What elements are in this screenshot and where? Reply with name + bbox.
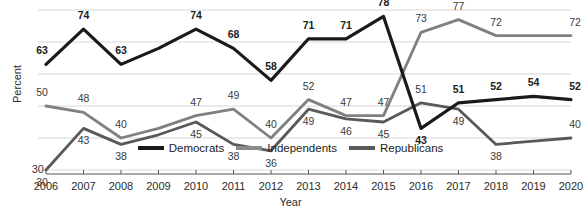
data-label: 40	[258, 118, 284, 130]
data-label: 73	[408, 12, 434, 24]
data-label: 52	[296, 80, 322, 92]
x-tick-label: 2013	[289, 180, 329, 192]
x-tick-label: 2014	[326, 180, 366, 192]
data-label: 49	[446, 115, 472, 127]
x-axis-title: Year	[0, 196, 581, 208]
data-label: 63	[29, 44, 55, 56]
legend-item-independents[interactable]: Independents	[236, 142, 337, 154]
data-label: 51	[446, 83, 472, 95]
data-label: 74	[71, 9, 97, 21]
data-label: 68	[221, 28, 247, 40]
legend-swatch-icon	[138, 146, 164, 150]
legend-swatch-icon	[349, 146, 375, 150]
x-tick-label: 2015	[364, 180, 404, 192]
data-label: 46	[333, 125, 359, 137]
legend-label: Republicans	[380, 142, 443, 154]
data-label: 72	[562, 16, 588, 28]
chart-legend: DemocratsIndependentsRepublicans	[0, 142, 581, 154]
legend-label: Independents	[267, 142, 337, 154]
data-label: 74	[183, 9, 209, 21]
data-label: 45	[371, 128, 397, 140]
data-label: 45	[183, 128, 209, 140]
x-tick-label: 2012	[251, 180, 291, 192]
data-label: 47	[371, 96, 397, 108]
x-tick-label: 2018	[476, 180, 516, 192]
data-label: 47	[333, 96, 359, 108]
data-label: 71	[296, 19, 322, 31]
x-tick-label: 2011	[214, 180, 254, 192]
data-label: 71	[333, 19, 359, 31]
data-label: 63	[108, 44, 134, 56]
data-label: 78	[371, 0, 397, 8]
data-label: 50	[29, 86, 55, 98]
data-label: 40	[108, 118, 134, 130]
x-tick-label: 2020	[551, 180, 588, 192]
x-tick-label: 2008	[101, 180, 141, 192]
data-label: 49	[221, 89, 247, 101]
data-label: 58	[258, 60, 284, 72]
x-tick-label: 2019	[514, 180, 554, 192]
x-tick-label: 2016	[401, 180, 441, 192]
data-label: 40	[562, 118, 588, 130]
data-label: 48	[71, 92, 97, 104]
y-tick-label: 30	[22, 163, 44, 175]
x-tick-label: 2010	[176, 180, 216, 192]
data-label: 77	[446, 0, 472, 12]
x-tick-label: 2009	[139, 180, 179, 192]
data-label: 30	[29, 176, 55, 188]
legend-label: Democrats	[169, 142, 225, 154]
x-tick-label: 2007	[64, 180, 104, 192]
data-label: 72	[483, 16, 509, 28]
legend-swatch-icon	[236, 146, 262, 150]
data-label: 51	[408, 83, 434, 95]
data-label: 49	[296, 115, 322, 127]
data-label: 47	[183, 96, 209, 108]
data-label: 52	[483, 80, 509, 92]
legend-item-democrats[interactable]: Democrats	[138, 142, 225, 154]
x-tick-label: 2017	[439, 180, 479, 192]
legend-item-republicans[interactable]: Republicans	[349, 142, 443, 154]
data-label: 54	[521, 76, 547, 88]
y-axis-title: Percent	[11, 54, 23, 114]
data-label: 52	[562, 80, 588, 92]
data-label: 36	[258, 157, 284, 169]
